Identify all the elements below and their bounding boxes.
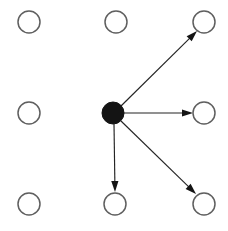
node-n-mid-center[interactable] <box>102 102 124 124</box>
node-n-top-center[interactable] <box>105 11 127 33</box>
e-center-to-bottom-right-shaft <box>121 121 190 188</box>
diagram-canvas <box>0 0 228 231</box>
node-n-bottom-right[interactable] <box>193 193 215 215</box>
e-center-to-mid-right[interactable] <box>124 109 193 116</box>
e-center-to-bottom-center-arrowhead <box>111 181 118 192</box>
e-center-to-bottom-center-shaft <box>114 124 115 183</box>
e-center-to-top-right[interactable] <box>121 31 197 106</box>
node-n-mid-left[interactable] <box>18 102 40 124</box>
node-n-top-left[interactable] <box>18 11 40 33</box>
e-center-to-bottom-right[interactable] <box>121 121 196 194</box>
node-n-bottom-left[interactable] <box>18 193 40 215</box>
node-grid-diagram <box>0 0 228 231</box>
node-n-top-right[interactable] <box>193 11 215 33</box>
e-center-to-top-right-shaft <box>121 37 191 106</box>
e-center-to-bottom-center[interactable] <box>111 124 118 192</box>
node-n-bottom-center[interactable] <box>104 193 126 215</box>
node-n-mid-right[interactable] <box>193 102 215 124</box>
e-center-to-mid-right-arrowhead <box>182 109 193 116</box>
